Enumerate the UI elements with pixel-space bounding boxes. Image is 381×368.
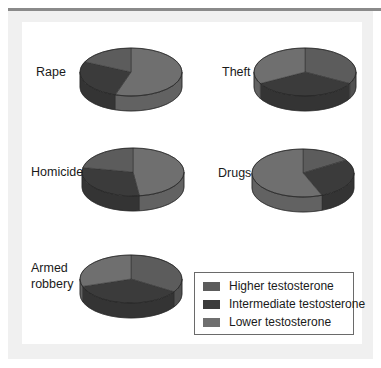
legend-swatch-lower xyxy=(203,318,220,327)
pie-label-line: Armed xyxy=(31,261,68,275)
legend-item-higher: Higher testosterone xyxy=(203,279,334,293)
pie-theft xyxy=(254,48,356,111)
pie-homicide xyxy=(82,148,184,211)
pie-label-line: Homicide xyxy=(31,165,83,179)
pie-label-armed-robbery: Armedrobbery xyxy=(31,261,74,291)
pie-label-homicide: Homicide xyxy=(31,165,83,179)
pie-label-rape: Rape xyxy=(36,65,66,79)
pie-armed-robbery xyxy=(80,255,182,318)
pie-label-theft: Theft xyxy=(222,65,251,79)
legend: Higher testosterone Intermediate testost… xyxy=(194,272,354,335)
pie-label-line: robbery xyxy=(31,277,74,291)
pie-label-line: Rape xyxy=(36,65,66,79)
legend-label-lower: Lower testosterone xyxy=(229,315,331,329)
legend-swatch-higher xyxy=(203,282,220,291)
pie-drugs xyxy=(252,149,354,212)
legend-item-intermediate: Intermediate testosterone xyxy=(203,297,365,311)
pie-label-line: Theft xyxy=(222,65,251,79)
pie-rape xyxy=(80,48,182,111)
legend-label-intermediate: Intermediate testosterone xyxy=(229,297,365,311)
legend-label-higher: Higher testosterone xyxy=(229,279,334,293)
pie-slice-homicide-higher xyxy=(83,148,133,172)
legend-item-lower: Lower testosterone xyxy=(203,315,331,329)
pie-label-line: Drugs xyxy=(218,166,251,180)
pie-label-drugs: Drugs xyxy=(218,166,251,180)
legend-swatch-intermediate xyxy=(203,300,220,309)
